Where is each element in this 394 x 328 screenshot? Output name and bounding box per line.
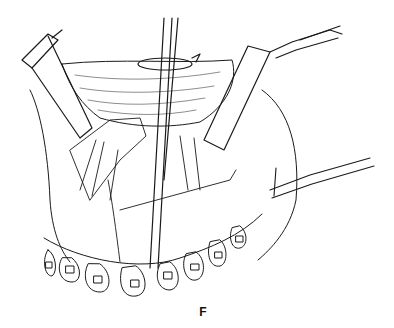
tooth bbox=[121, 266, 146, 296]
exposed-cavity bbox=[70, 118, 236, 262]
right-retractor bbox=[204, 26, 342, 150]
figure-label: F bbox=[196, 305, 210, 319]
tooth bbox=[85, 264, 109, 292]
left-cheek bbox=[30, 90, 70, 262]
right-cheek bbox=[258, 90, 297, 260]
left-retractor bbox=[22, 30, 92, 138]
teeth bbox=[45, 226, 246, 296]
surgical-illustration bbox=[0, 0, 394, 300]
lower-right-retractor bbox=[270, 158, 374, 198]
tissue-dome bbox=[62, 60, 234, 126]
dome-hatching bbox=[75, 72, 220, 115]
tooth bbox=[230, 226, 246, 248]
vertical-rod bbox=[150, 18, 178, 268]
tooth bbox=[157, 262, 178, 290]
